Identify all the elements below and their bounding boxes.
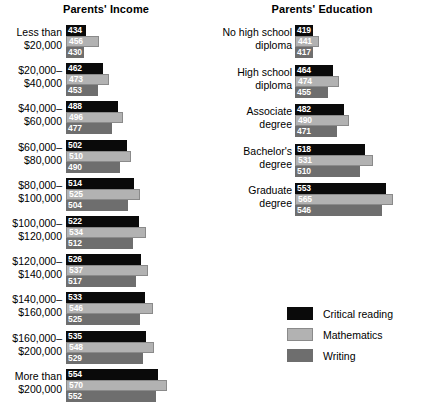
bar-value-label: 474	[298, 76, 312, 87]
panel-parents-income: Parents' Income Less than $20,0004344564…	[0, 0, 216, 397]
bar-critical-reading: 488	[66, 101, 118, 112]
bar-mathematics: 546	[66, 303, 153, 314]
bar-value-label: 477	[68, 123, 82, 134]
bar-value-label: 488	[68, 101, 82, 112]
bar-mathematics: 490	[295, 115, 349, 126]
chart-row: $80,000– $100,000514525504	[0, 178, 216, 212]
legend-swatch-icon	[287, 349, 313, 362]
bar-mathematics: 548	[66, 342, 154, 353]
bar-value-label: 510	[297, 166, 311, 177]
row-bars: 553565546	[295, 183, 393, 216]
bar-value-label: 473	[69, 74, 83, 85]
bar-value-label: 522	[68, 216, 82, 227]
bar-mathematics: 534	[66, 227, 146, 238]
bar-value-label: 490	[68, 162, 82, 173]
bar-mathematics: 565	[295, 194, 393, 205]
row-bars: 434456430	[66, 25, 99, 58]
bar-value-label: 531	[298, 155, 312, 166]
bar-writing: 430	[66, 47, 84, 58]
row-category-label: Associate degree	[216, 105, 292, 131]
bar-writing: 417	[295, 47, 313, 58]
bar-value-label: 533	[68, 292, 82, 303]
bar-critical-reading: 526	[66, 254, 141, 265]
bar-critical-reading: 502	[66, 140, 127, 151]
row-bars: 526537517	[66, 254, 148, 287]
bar-value-label: 552	[68, 391, 82, 402]
bar-mathematics: 531	[295, 155, 373, 166]
bar-value-label: 462	[68, 63, 82, 74]
bar-value-label: 517	[68, 276, 82, 287]
row-category-label: Less than $20,000	[0, 26, 62, 52]
row-bars: 514525504	[66, 178, 140, 211]
chart-row: $120,000– $140,000526537517	[0, 254, 216, 288]
row-bars: 419441417	[295, 25, 319, 58]
bar-writing: 517	[66, 276, 136, 287]
bar-value-label: 496	[69, 112, 83, 123]
legend-swatch-icon	[287, 307, 313, 320]
bar-value-label: 548	[69, 342, 83, 353]
legend-swatch-icon	[287, 328, 313, 341]
bar-value-label: 565	[298, 194, 312, 205]
legend-label: Critical reading	[323, 308, 393, 320]
bar-critical-reading: 518	[295, 144, 365, 155]
bar-value-label: 554	[68, 369, 82, 380]
bar-value-label: 537	[69, 265, 83, 276]
bar-mathematics: 441	[295, 36, 319, 47]
chart-row: $160,000– $200,000535548529	[0, 331, 216, 365]
bar-critical-reading: 464	[295, 65, 333, 76]
chart-row: $140,000– $160,000533546525	[0, 292, 216, 326]
bar-value-label: 535	[68, 331, 82, 342]
bar-mathematics: 473	[66, 74, 109, 85]
bar-mathematics: 496	[66, 112, 123, 123]
bar-writing: 510	[295, 166, 360, 177]
row-category-label: More than $200,000	[0, 370, 62, 396]
bar-value-label: 502	[68, 140, 82, 151]
bar-value-label: 453	[68, 85, 82, 96]
chart-row: High school diploma464474455	[216, 65, 432, 99]
row-category-label: $80,000– $100,000	[0, 179, 62, 205]
bar-mathematics: 537	[66, 265, 148, 276]
chart-row: More than $200,000554570552	[0, 369, 216, 403]
row-bars: 482490471	[295, 104, 349, 137]
bar-critical-reading: 462	[66, 63, 103, 74]
row-category-label: $140,000– $160,000	[0, 293, 62, 319]
chart-row: $40,000– $60,000488496477	[0, 101, 216, 135]
bar-value-label: 570	[69, 380, 83, 391]
bar-value-label: 534	[69, 227, 83, 238]
bar-writing: 455	[295, 87, 328, 98]
row-category-label: $160,000– $200,000	[0, 332, 62, 358]
chart-legend: Critical readingMathematicsWriting	[287, 303, 432, 366]
bar-writing: 552	[66, 391, 156, 402]
bar-value-label: 504	[68, 200, 82, 211]
row-bars: 554570552	[66, 369, 167, 402]
row-category-label: $60,000– $80,000	[0, 141, 62, 167]
bar-value-label: 471	[297, 126, 311, 137]
row-category-label: No high school diploma	[216, 26, 292, 52]
bar-writing: 529	[66, 353, 143, 364]
bar-mathematics: 525	[66, 189, 140, 200]
bar-value-label: 546	[297, 205, 311, 216]
row-category-label: $40,000– $60,000	[0, 102, 62, 128]
chart-row: $100,000– $120,000522534512	[0, 216, 216, 250]
panel-title-income: Parents' Income	[6, 3, 206, 15]
chart-row: Graduate degree553565546	[216, 183, 432, 217]
bar-writing: 490	[66, 162, 120, 173]
chart-row: Associate degree482490471	[216, 104, 432, 138]
bar-value-label: 464	[297, 65, 311, 76]
bar-writing: 477	[66, 123, 112, 134]
bar-value-label: 455	[297, 87, 311, 98]
row-category-label: Bachelor's degree	[216, 145, 292, 171]
bar-value-label: 553	[297, 183, 311, 194]
bar-critical-reading: 535	[66, 331, 146, 342]
bar-value-label: 490	[298, 115, 312, 126]
bar-writing: 512	[66, 238, 133, 249]
bar-value-label: 512	[68, 238, 82, 249]
row-bars: 533546525	[66, 292, 153, 325]
chart-row: Less than $20,000434456430	[0, 25, 216, 59]
bar-value-label: 526	[68, 254, 82, 265]
chart-row: Bachelor's degree518531510	[216, 144, 432, 178]
bar-writing: 453	[66, 85, 98, 96]
bar-value-label: 510	[69, 151, 83, 162]
row-category-label: $100,000– $120,000	[0, 217, 62, 243]
bar-mathematics: 456	[66, 36, 99, 47]
